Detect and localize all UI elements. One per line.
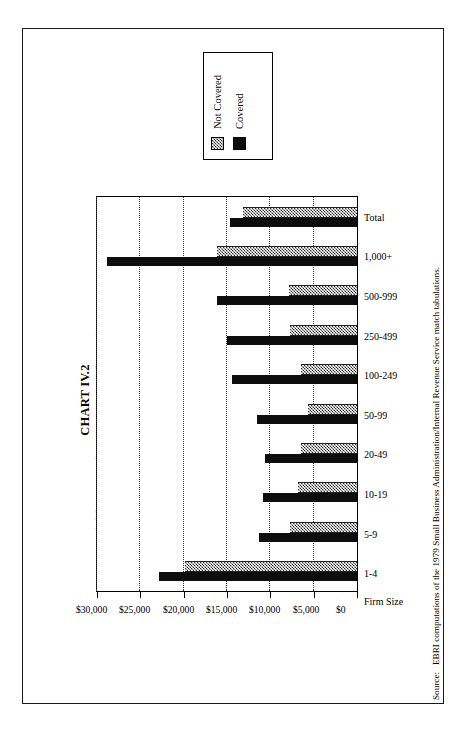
bar-group [97, 315, 357, 354]
bar-not-covered [290, 522, 357, 533]
category-label: 1,000+ [364, 251, 392, 262]
bar-group [97, 512, 357, 551]
chart-title-line1: CHART IV.2 [78, 100, 93, 700]
category-label: 10-19 [364, 489, 387, 500]
source-text: EBRI computations of the 1979 Small Busi… [431, 267, 441, 665]
legend-swatch-not-covered-icon [211, 137, 224, 150]
bar-covered [263, 493, 357, 502]
bar-group [97, 473, 357, 512]
bar-covered [265, 454, 357, 463]
bar-not-covered [243, 207, 357, 218]
bar-group [97, 355, 357, 394]
legend-swatch-covered-icon [233, 137, 246, 150]
legend: Not Covered Covered [203, 52, 273, 160]
category-label: 500-999 [364, 291, 397, 302]
bar-not-covered [301, 364, 357, 375]
source-label: Source: [431, 672, 441, 700]
bar-not-covered [290, 325, 357, 336]
category-label: 5-9 [364, 529, 377, 540]
legend-label-covered: Covered [234, 93, 245, 129]
plot-container: $0$5,000$10,000$15,000$20,000$25,000$30,… [96, 196, 358, 592]
bar-group [97, 394, 357, 433]
bar-group [97, 197, 357, 236]
bar-covered [230, 218, 357, 227]
bar-covered [227, 336, 357, 345]
bar-group [97, 433, 357, 472]
legend-item-not-covered: Not Covered [211, 62, 224, 150]
source-note: Source: EBRI computations of the 1979 Sm… [431, 100, 442, 700]
bar-not-covered [185, 561, 357, 572]
plot-area [96, 196, 358, 592]
bar-not-covered [298, 482, 357, 493]
bar-group [97, 552, 357, 591]
category-label: 1-4 [364, 568, 377, 579]
bar-group [97, 236, 357, 275]
legend-item-covered: Covered [233, 62, 246, 150]
bar-not-covered [308, 404, 357, 415]
category-label: 250-499 [364, 331, 397, 342]
category-label: 50-99 [364, 410, 387, 421]
legend-label-not-covered: Not Covered [212, 75, 223, 129]
category-label: 20-49 [364, 449, 387, 460]
bar-covered [107, 257, 357, 266]
category-axis-title: Firm Size [364, 596, 403, 607]
bar-covered [232, 375, 357, 384]
bar-series-group [97, 197, 357, 591]
bar-not-covered [217, 246, 357, 257]
category-label: Total [364, 212, 384, 223]
bar-not-covered [301, 443, 357, 454]
bar-covered [257, 415, 357, 424]
bar-covered [159, 572, 357, 581]
figure-page: CHART IV.2 Depreciable Assets, by Firm S… [0, 0, 465, 730]
bar-group [97, 276, 357, 315]
category-label: 100-249 [364, 370, 397, 381]
bar-covered [217, 296, 357, 305]
bar-not-covered [289, 285, 357, 296]
bar-covered [259, 533, 357, 542]
